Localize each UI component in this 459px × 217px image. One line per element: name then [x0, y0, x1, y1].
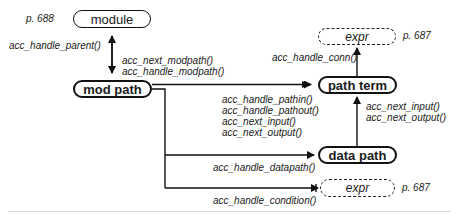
edge-label-next-input: acc_next_input(): [222, 116, 296, 127]
edge-label-next-output: acc_next_output(): [222, 127, 302, 138]
data-path-label: data path: [329, 148, 387, 163]
expr-top-page-ref: p. 687: [403, 30, 431, 41]
edge-label-handle-conn: acc_handle_conn(): [272, 52, 357, 63]
edge-label-handle-parent: acc_handle_parent(): [9, 40, 101, 51]
edge-label-dp-next-input: acc_next_input(): [366, 101, 440, 112]
edge-label-handle-pathin: acc_handle_pathin(): [222, 94, 313, 105]
edge-label-handle-pathout: acc_handle_pathout(): [222, 105, 319, 116]
expr-bottom-page-ref: p. 687: [402, 182, 430, 193]
path-term-label: path term: [328, 78, 387, 93]
edge-label-handle-condition: acc_handle_condition(): [213, 195, 316, 206]
expr-top-label: expr: [345, 30, 368, 44]
module-page-ref: p. 688: [26, 13, 54, 24]
edge-label-dp-next-output: acc_next_output(): [366, 112, 446, 123]
module-label: module: [91, 12, 134, 27]
edge-label-next-modpath: acc_next_modpath(): [122, 55, 213, 66]
mod-path-node: mod path: [73, 80, 152, 98]
expr-bottom-label: expr: [346, 181, 369, 195]
path-term-node: path term: [318, 76, 397, 94]
module-node: module: [73, 10, 151, 28]
expr-bottom-node: expr: [320, 179, 395, 197]
data-path-node: data path: [318, 146, 397, 164]
edge-label-handle-modpath: acc_handle_modpath(): [122, 66, 224, 77]
separator-rule: [8, 211, 451, 212]
diagram-canvas: p. 688 module mod path expr p. 687 path …: [0, 0, 459, 217]
edge-label-handle-datapath: acc_handle_datapath(): [213, 162, 315, 173]
mod-path-label: mod path: [83, 82, 142, 97]
expr-top-node: expr: [318, 28, 396, 45]
